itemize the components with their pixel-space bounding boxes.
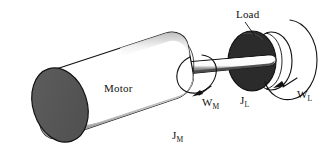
motor-label: Motor bbox=[104, 83, 133, 94]
load-inertia-subscript: L bbox=[244, 100, 249, 109]
motor-speed-subscript: M bbox=[213, 102, 220, 111]
load-inertia-label: JL bbox=[240, 95, 249, 106]
motor-load-diagram: Motor Load JM WM JL WL bbox=[0, 0, 329, 162]
load-speed-subscript: L bbox=[308, 94, 313, 103]
motor-inertia-label: JM bbox=[172, 130, 183, 141]
load-speed-label: WL bbox=[297, 89, 312, 100]
motor-speed-symbol: W bbox=[202, 96, 213, 108]
motor-inertia-subscript: M bbox=[176, 135, 183, 144]
diagram-canvas bbox=[0, 0, 329, 162]
load-speed-symbol: W bbox=[297, 88, 308, 100]
motor-speed-label: WM bbox=[202, 97, 219, 108]
motor-rotation-arrow-tail bbox=[199, 86, 211, 95]
load-label: Load bbox=[236, 9, 259, 20]
